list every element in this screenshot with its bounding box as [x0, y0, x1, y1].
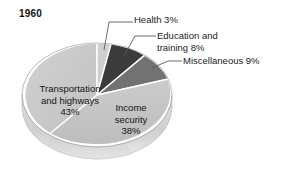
- slice-label-miscellaneous-text: Miscellaneous 9%: [183, 55, 260, 66]
- slice-label-income-security: Income security 38%: [105, 102, 157, 137]
- slice-label-miscellaneous: Miscellaneous 9%: [183, 55, 260, 67]
- slice-label-transportation-line1: Transportation: [28, 83, 112, 95]
- slice-label-transportation-line3: 43%: [28, 106, 112, 118]
- slice-label-education: Education and training 8%: [157, 30, 218, 53]
- slice-label-health: Health 3%: [134, 14, 178, 26]
- slice-label-education-line2: training 8%: [157, 42, 218, 54]
- slice-label-income-line2: security: [105, 114, 157, 126]
- slice-label-income-line1: Income: [105, 102, 157, 114]
- slice-label-income-line3: 38%: [105, 125, 157, 137]
- slice-label-transportation: Transportation and highways 43%: [28, 83, 112, 118]
- pie-chart-figure: 1960: [0, 0, 282, 180]
- slice-label-health-text: Health 3%: [134, 14, 178, 25]
- slice-label-transportation-line2: and highways: [28, 95, 112, 107]
- slice-label-education-line1: Education and: [157, 30, 218, 42]
